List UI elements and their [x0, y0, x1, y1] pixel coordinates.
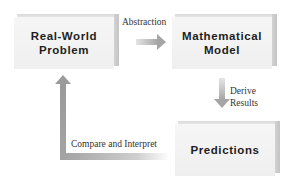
- box-side-bevel: [275, 121, 280, 173]
- derive-results-label: Derive Results: [230, 85, 258, 109]
- mathematical-model-box: Mathematical Model: [172, 14, 278, 70]
- abstraction-label: Abstraction: [122, 16, 166, 28]
- derive-results-arrow-icon: [214, 78, 230, 108]
- box-side-bevel: [114, 14, 119, 66]
- predictions-label: Predictions: [175, 124, 275, 176]
- abstraction-arrow-icon: [136, 34, 166, 50]
- box-side-bevel: [272, 14, 277, 66]
- real-world-problem-label: Real-World Problem: [14, 17, 114, 69]
- predictions-box: Predictions: [175, 121, 281, 177]
- compare-interpret-label: Compare and Interpret: [71, 138, 157, 150]
- mathematical-model-label: Mathematical Model: [172, 17, 272, 69]
- real-world-problem-box: Real-World Problem: [14, 14, 120, 70]
- modeling-cycle-diagram: Real-World Problem Mathematical Model Pr…: [0, 0, 292, 186]
